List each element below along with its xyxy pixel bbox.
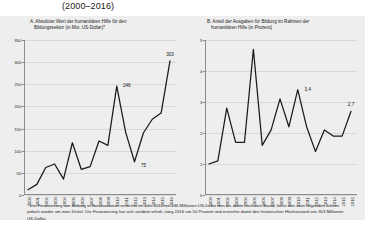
figure-page: (2000–2016) A. Absoluter Wert der humani…: [0, 0, 365, 241]
footnote: * Die Finanzierung von Bildung in Notsit…: [27, 203, 345, 222]
panel-a-plot: 2000200120022003200420052006200720082009…: [24, 40, 176, 195]
y-tick-label: 150: [14, 126, 21, 131]
x-tick-label: 2016: [350, 197, 355, 207]
panel-b-heading-line2: humanitären Hilfe (in Prozent): [207, 25, 355, 31]
panel-b-plot: 2000200120022003200420052006200720082009…: [205, 40, 357, 195]
y-tick-label: 1: [200, 162, 202, 167]
y-tick-mark: [22, 195, 24, 196]
y-tick-label: 2: [200, 131, 202, 136]
panel-b: B. Anteil der Ausgaben für Bildung im Ra…: [185, 16, 365, 220]
panel-a-heading-line2: Bildungssektor (in Mio. US-Dollar)*: [30, 25, 175, 31]
y-tick-label: 100: [14, 148, 21, 153]
panel-b-heading: B. Anteil der Ausgaben für Bildung im Ra…: [207, 19, 355, 31]
data-series-line: [24, 40, 176, 195]
data-series-line: [205, 40, 357, 195]
page-title: (2000–2016): [62, 1, 114, 11]
data-point-label: 303: [166, 51, 174, 56]
y-tick-label: 0: [19, 193, 21, 198]
y-tick-label: 350: [14, 38, 21, 43]
panel-a-heading-line1: A. Absoluter Wert der humanitären Hilfe …: [30, 19, 126, 24]
y-tick-label: 3: [200, 100, 202, 105]
panel-b-heading-line1: B. Anteil der Ausgaben für Bildung im Ra…: [207, 19, 309, 24]
gridline: [206, 195, 357, 196]
y-tick-label: 0: [200, 193, 202, 198]
y-tick-label: 200: [14, 104, 21, 109]
y-tick-label: 50: [17, 170, 22, 175]
gridline: [25, 195, 176, 196]
panel-a: A. Absoluter Wert der humanitären Hilfe …: [0, 16, 185, 220]
data-point-label: 2,7: [348, 102, 354, 107]
data-point-label: 3,4: [305, 86, 311, 91]
y-tick-mark: [203, 195, 205, 196]
y-tick-label: 300: [14, 60, 21, 65]
figure-body: A. Absoluter Wert der humanitären Hilfe …: [0, 16, 365, 220]
y-tick-label: 5: [200, 38, 202, 43]
data-point-label: 75: [141, 162, 146, 167]
y-tick-label: 4: [200, 69, 202, 74]
data-point-label: 246: [123, 83, 131, 88]
y-tick-label: 250: [14, 82, 21, 87]
panel-a-heading: A. Absoluter Wert der humanitären Hilfe …: [30, 19, 175, 31]
